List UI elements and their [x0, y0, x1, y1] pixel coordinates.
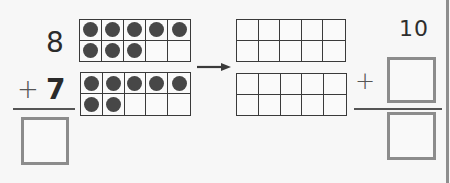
ten-frame-cell	[124, 41, 146, 62]
ten-frame-cell	[125, 94, 147, 115]
addend-ten: 10	[399, 18, 429, 40]
ten-frame-cell	[237, 74, 259, 95]
ten-frame-cell	[168, 20, 190, 41]
ten-frame-cell	[281, 95, 303, 116]
counter-dot-icon	[105, 22, 120, 37]
addend-eight: 8	[46, 29, 64, 57]
ten-frame-cell	[259, 74, 281, 95]
ten-frame-cell	[302, 41, 324, 62]
plus-sign-left: +	[17, 76, 39, 102]
ten-frame-cell	[302, 74, 324, 95]
ten-frame-cell	[259, 41, 281, 62]
ten-frame-cell	[237, 95, 259, 116]
ten-frame-cell	[146, 94, 168, 115]
ten-frame-cell	[324, 95, 346, 116]
ten-frame-cell	[168, 41, 190, 62]
ten-frame-cell	[81, 94, 103, 115]
answer-box-addend[interactable]	[387, 57, 436, 103]
ten-frame-cell	[302, 95, 324, 116]
counter-dot-icon	[172, 22, 187, 37]
ten-frame-cell	[81, 73, 103, 94]
sum-line-left	[13, 108, 75, 110]
ten-frame-cell	[323, 41, 345, 62]
counter-dot-icon	[84, 97, 99, 112]
addend-seven: 7	[46, 76, 65, 104]
ten-frame-cell	[125, 73, 147, 94]
ten-frame-empty-bottom[interactable]	[236, 73, 347, 116]
ten-frame-cell	[146, 73, 168, 94]
answer-box-total[interactable]	[387, 112, 436, 160]
ten-frame-cell	[280, 20, 302, 41]
right-arrow-icon	[197, 62, 231, 72]
ten-frame-cell	[80, 41, 102, 62]
counter-dot-icon	[149, 76, 164, 91]
page-edge-divider	[446, 0, 449, 183]
counter-dot-icon	[127, 22, 142, 37]
ten-frame-cell	[237, 41, 259, 62]
ten-frame-eight	[79, 19, 191, 62]
counter-dot-icon	[105, 43, 120, 58]
ten-frame-cell	[103, 94, 125, 115]
ten-frame-cell	[146, 20, 168, 41]
ten-frame-cell	[80, 20, 102, 41]
counter-dot-icon	[83, 43, 98, 58]
ten-frame-cell	[102, 20, 124, 41]
ten-frame-cell	[324, 74, 346, 95]
counter-dot-icon	[127, 43, 142, 58]
ten-frame-cell	[168, 73, 190, 94]
counter-dot-icon	[149, 22, 164, 37]
counter-dot-icon	[83, 22, 98, 37]
plus-sign-right: +	[355, 69, 375, 93]
ten-frame-seven	[80, 72, 191, 116]
ten-frame-empty-top[interactable]	[236, 19, 346, 62]
ten-frame-cell	[103, 73, 125, 94]
counter-dot-icon	[127, 76, 142, 91]
ten-frame-cell	[280, 41, 302, 62]
ten-frame-cell	[102, 41, 124, 62]
ten-frame-cell	[281, 74, 303, 95]
ten-frame-cell	[168, 94, 190, 115]
ten-frame-cell	[146, 41, 168, 62]
ten-frame-cell	[259, 95, 281, 116]
counter-dot-icon	[106, 97, 121, 112]
counter-dot-icon	[84, 76, 99, 91]
counter-dot-icon	[172, 76, 187, 91]
ten-frame-cell	[259, 20, 281, 41]
sum-line-right	[354, 108, 442, 110]
ten-frame-cell	[124, 20, 146, 41]
counter-dot-icon	[106, 76, 121, 91]
answer-box-sum[interactable]	[21, 117, 69, 165]
ten-frame-cell	[323, 20, 345, 41]
ten-frame-cell	[302, 20, 324, 41]
ten-frame-cell	[237, 20, 259, 41]
